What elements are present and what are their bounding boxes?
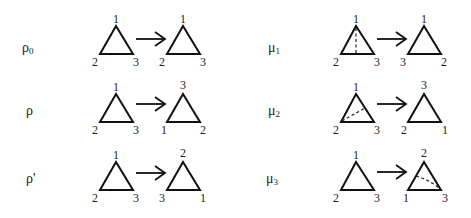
row-1: ρ0 1 2 3 1 2 3 μ1 1 2 3 (22, 12, 447, 69)
vertex-top: 1 (421, 12, 427, 26)
triangle-before (341, 94, 374, 122)
vertex-bottom-left: 1 (403, 191, 409, 205)
vertex-bottom-right: 3 (200, 55, 206, 69)
vertex-top: 1 (180, 12, 186, 26)
vertex-top: 1 (353, 12, 359, 26)
label-rho: ρ (26, 103, 33, 118)
triangle-before (100, 162, 133, 190)
vertex-bottom-right: 2 (441, 55, 447, 69)
row-3: ρ' 1 2 3 2 3 1 μ3 1 2 3 2 (26, 146, 448, 205)
triangle-before (341, 26, 374, 54)
label-rho-prime: ρ' (26, 171, 36, 186)
vertex-top: 2 (180, 146, 186, 160)
vertex-bottom-right: 3 (133, 191, 139, 205)
vertex-bottom-right: 3 (133, 55, 139, 69)
vertex-bottom-left: 2 (333, 123, 339, 137)
vertex-bottom-left: 3 (400, 55, 406, 69)
label-mu3: μ3 (266, 171, 279, 187)
mapping-rho: ρ 1 2 3 3 1 2 (26, 78, 206, 137)
arrow-icon (136, 97, 165, 111)
vertex-bottom-left: 1 (161, 123, 167, 137)
vertex-bottom-right: 3 (374, 123, 380, 137)
vertex-bottom-left: 2 (333, 55, 339, 69)
vertex-bottom-left: 2 (159, 55, 165, 69)
triangle-before (100, 26, 133, 54)
arrow-icon (377, 165, 406, 179)
triangle-after (167, 162, 200, 190)
triangle-after (408, 26, 441, 54)
vertex-bottom-right: 1 (442, 123, 448, 137)
triangle-after (408, 94, 441, 122)
vertex-bottom-right: 2 (200, 123, 206, 137)
label-mu1: μ1 (268, 40, 280, 56)
triangle-before (100, 94, 133, 122)
arrow-icon (377, 97, 406, 111)
vertex-bottom-left: 2 (92, 123, 98, 137)
vertex-bottom-left: 3 (159, 191, 165, 205)
vertex-top: 1 (113, 148, 119, 162)
vertex-bottom-left: 2 (92, 55, 98, 69)
triangle-after (167, 94, 200, 122)
vertex-top: 2 (421, 146, 427, 160)
triangle-after (167, 26, 200, 54)
mapping-rho0: ρ0 1 2 3 1 2 3 (22, 12, 206, 69)
mapping-mu2: μ2 1 2 3 3 2 1 (268, 78, 448, 137)
vertex-top: 1 (113, 80, 119, 94)
label-rho0: ρ0 (22, 40, 34, 56)
mapping-mu1: μ1 1 2 3 1 3 2 (268, 12, 447, 69)
row-2: ρ 1 2 3 3 1 2 μ2 1 2 3 3 (26, 78, 448, 137)
vertex-bottom-right: 3 (442, 191, 448, 205)
vertex-top: 1 (353, 148, 359, 162)
triangle-before (341, 162, 374, 190)
label-mu2: μ2 (268, 103, 280, 119)
vertex-top: 3 (421, 78, 427, 92)
vertex-bottom-left: 2 (92, 191, 98, 205)
arrow-icon (377, 32, 406, 46)
vertex-bottom-left: 2 (401, 123, 407, 137)
vertex-bottom-right: 3 (374, 191, 380, 205)
mapping-rho-prime: ρ' 1 2 3 2 3 1 (26, 146, 206, 205)
arrow-icon (136, 32, 165, 46)
vertex-top: 1 (353, 80, 359, 94)
vertex-top: 3 (180, 78, 186, 92)
vertex-bottom-right: 3 (374, 55, 380, 69)
vertex-top: 1 (113, 12, 119, 26)
mapping-mu3: μ3 1 2 3 2 1 3 (266, 146, 448, 205)
symmetry-diagram: ρ0 1 2 3 1 2 3 μ1 1 2 3 (0, 0, 471, 218)
vertex-bottom-left: 2 (333, 191, 339, 205)
vertex-bottom-right: 1 (200, 191, 206, 205)
arrow-icon (136, 166, 165, 180)
vertex-bottom-right: 3 (133, 123, 139, 137)
